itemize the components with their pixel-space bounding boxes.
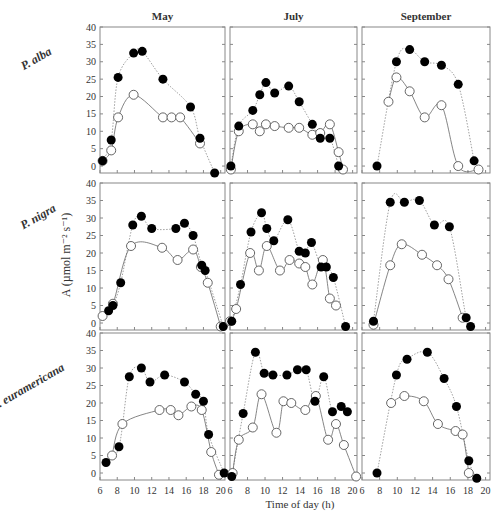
y-tick-label: 5 xyxy=(91,450,96,461)
y-tick-label: 40 xyxy=(86,328,96,339)
open-marker xyxy=(433,261,442,270)
filled-marker xyxy=(128,221,137,230)
filled-series-line xyxy=(103,49,215,173)
x-tick-label: 20 xyxy=(348,485,358,496)
column-title: July xyxy=(283,10,304,22)
filled-marker xyxy=(437,61,446,70)
filled-marker xyxy=(114,442,123,451)
filled-marker xyxy=(160,371,169,380)
filled-marker xyxy=(392,57,401,66)
filled-marker xyxy=(307,238,316,247)
filled-marker xyxy=(186,102,195,111)
filled-marker xyxy=(257,208,266,217)
filled-marker xyxy=(325,134,334,143)
row-label: P. alba xyxy=(18,44,54,73)
filled-marker xyxy=(102,458,111,467)
x-tick-label: 18 xyxy=(198,485,208,496)
open-marker xyxy=(187,402,196,411)
panel xyxy=(226,27,357,174)
y-tick-label: 35 xyxy=(86,195,96,206)
open-marker xyxy=(287,399,296,408)
filled-marker xyxy=(255,90,264,99)
y-tick-label: 25 xyxy=(86,74,96,85)
filled-marker xyxy=(420,57,429,66)
open-marker xyxy=(437,101,446,110)
open-marker xyxy=(331,420,340,429)
filled-marker xyxy=(405,45,414,54)
x-tick-label: 20 xyxy=(481,485,491,496)
filled-marker xyxy=(454,80,463,89)
row-label: P. nigra xyxy=(18,201,58,232)
y-tick-label: 35 xyxy=(86,39,96,50)
panel-frame xyxy=(100,27,225,173)
column-title: May xyxy=(152,10,174,22)
open-marker xyxy=(248,423,257,432)
open-marker xyxy=(418,250,427,259)
filled-marker xyxy=(470,156,479,165)
filled-marker xyxy=(227,472,236,481)
filled-marker xyxy=(247,228,256,237)
filled-marker xyxy=(343,407,352,416)
filled-marker xyxy=(251,348,260,357)
open-marker xyxy=(400,392,409,401)
row-label: P. euramericana xyxy=(0,360,67,413)
y-tick-label: 40 xyxy=(86,22,96,33)
x-tick-label: 8 xyxy=(377,485,382,496)
filled-marker xyxy=(403,355,412,364)
open-marker xyxy=(352,472,361,481)
x-tick-label: 6 xyxy=(228,485,233,496)
open-marker xyxy=(270,122,279,131)
x-tick-label: 16 xyxy=(445,485,455,496)
open-marker xyxy=(234,435,243,444)
filled-marker xyxy=(226,162,235,171)
filled-marker xyxy=(261,78,270,87)
open-marker xyxy=(127,242,136,251)
filled-marker xyxy=(430,221,439,230)
open-marker xyxy=(308,280,317,289)
filled-marker xyxy=(464,456,473,465)
open-marker xyxy=(275,266,284,275)
filled-marker xyxy=(284,82,293,91)
y-tick-label: 30 xyxy=(86,213,96,224)
x-tick-label: 18 xyxy=(463,485,473,496)
x-tick-label: 20 xyxy=(216,485,226,496)
filled-marker xyxy=(445,222,454,231)
open-marker xyxy=(176,113,185,122)
y-tick-label: 10 xyxy=(86,433,96,444)
open-marker xyxy=(285,256,294,265)
filled-marker xyxy=(472,474,481,483)
filled-marker xyxy=(234,122,243,131)
filled-marker xyxy=(308,120,317,129)
filled-marker xyxy=(282,371,291,380)
x-tick-label: 10 xyxy=(260,485,270,496)
filled-marker xyxy=(283,215,292,224)
open-marker xyxy=(387,399,396,408)
filled-marker xyxy=(319,372,328,381)
open-marker xyxy=(254,266,263,275)
filled-marker xyxy=(199,397,208,406)
filled-series-line xyxy=(231,83,339,166)
panel-frame xyxy=(100,183,225,330)
open-marker xyxy=(246,249,255,258)
open-marker xyxy=(129,90,138,99)
filled-marker xyxy=(268,371,277,380)
panel xyxy=(226,183,358,331)
filled-marker xyxy=(295,97,304,106)
open-marker xyxy=(458,430,467,439)
panel: 68101214161820 xyxy=(227,333,360,496)
y-tick-label: 15 xyxy=(86,108,96,119)
open-marker xyxy=(386,261,395,270)
open-marker xyxy=(107,146,116,155)
open-marker xyxy=(444,275,453,284)
filled-marker xyxy=(125,372,134,381)
filled-marker xyxy=(440,374,449,383)
open-series-line xyxy=(112,405,219,475)
panel: 68101214161820 xyxy=(360,333,491,496)
y-tick-label: 10 xyxy=(86,126,96,137)
filled-marker xyxy=(415,196,424,205)
y-tick-label: 20 xyxy=(86,91,96,102)
panel-frame xyxy=(362,27,490,173)
x-tick-label: 14 xyxy=(164,485,174,496)
filled-series-line xyxy=(373,193,470,327)
filled-marker xyxy=(189,231,198,240)
